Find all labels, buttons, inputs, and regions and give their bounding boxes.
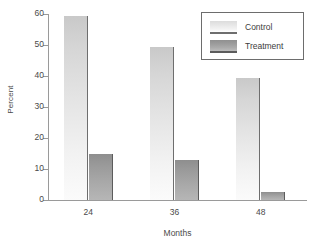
control-swatch-icon bbox=[210, 21, 237, 34]
bar-control-48 bbox=[236, 78, 260, 200]
y-axis-tick-label: 30 bbox=[18, 102, 44, 111]
legend: Control Treatment bbox=[201, 12, 304, 60]
legend-entry-treatment: Treatment bbox=[210, 39, 283, 53]
bar-chart: Percent 0102030405060 243648 Months Cont… bbox=[0, 0, 311, 250]
y-axis-tick-label: 20 bbox=[18, 133, 44, 142]
legend-entry-control: Control bbox=[210, 20, 272, 34]
x-axis-title: Months bbox=[48, 228, 307, 238]
y-axis-tick-label: 40 bbox=[18, 71, 44, 80]
bar-control-24 bbox=[64, 16, 88, 200]
x-axis-line bbox=[48, 200, 307, 201]
y-axis-tick-label: 10 bbox=[18, 164, 44, 173]
x-axis-tick-label: 48 bbox=[241, 207, 281, 217]
x-axis-tick-label: 24 bbox=[68, 207, 108, 217]
y-axis-title: Percent bbox=[6, 70, 15, 130]
bar-treatment-48 bbox=[261, 192, 285, 200]
y-axis-tick-label: 60 bbox=[18, 9, 44, 18]
y-axis-tick-label: 50 bbox=[18, 40, 44, 49]
legend-label-control: Control bbox=[245, 22, 272, 32]
x-axis-tick-label: 36 bbox=[155, 207, 195, 217]
legend-label-treatment: Treatment bbox=[245, 41, 283, 51]
bar-treatment-24 bbox=[89, 154, 113, 201]
treatment-swatch-icon bbox=[210, 40, 237, 53]
bar-control-36 bbox=[150, 47, 174, 200]
y-axis-tick-label: 0 bbox=[18, 195, 44, 204]
bar-treatment-36 bbox=[175, 160, 199, 200]
